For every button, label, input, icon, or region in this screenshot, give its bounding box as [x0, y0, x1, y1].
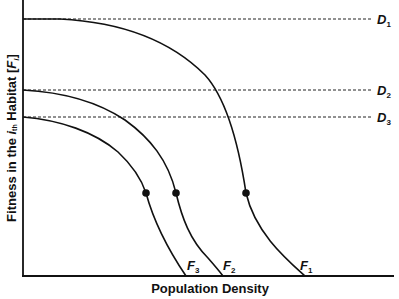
equilibrium-dot-f1 — [242, 189, 250, 197]
x-axis-title: Population Density — [151, 281, 270, 296]
curve-f2 — [23, 90, 223, 276]
label-d1: D1 — [377, 12, 391, 29]
label-f1: F1 — [300, 258, 313, 275]
label-f3: F3 — [187, 258, 200, 275]
label-d2: D2 — [377, 83, 391, 100]
y-axis-title: Fitness in the ith Habitat [Fi] — [4, 54, 21, 222]
fitness-diagram: D1 D2 D3 F1 F2 F3 Population Density Fit… — [0, 0, 399, 299]
label-f2: F2 — [223, 258, 236, 275]
curve-f3 — [23, 117, 186, 276]
label-d3: D3 — [377, 110, 391, 127]
equilibrium-dot-f3 — [142, 189, 150, 197]
equilibrium-dot-f2 — [172, 189, 180, 197]
